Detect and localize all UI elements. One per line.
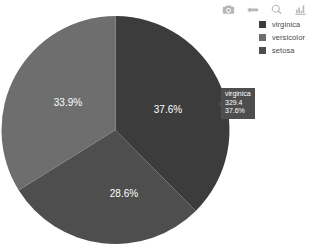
tooltip-value: 329.4 [225, 99, 251, 108]
modebar [222, 3, 307, 16]
legend-item-versicolor[interactable]: versicolor [259, 32, 305, 43]
pie-slices [2, 16, 230, 244]
legend-label-virginica: virginica [272, 19, 300, 30]
bar-chart-icon[interactable] [294, 3, 307, 16]
tooltip-title: virginica [225, 90, 251, 99]
hover-tooltip: virginica 329.4 37.6% [222, 89, 254, 118]
legend-swatch-virginica [259, 21, 266, 28]
zoom-icon[interactable] [270, 3, 283, 16]
legend: virginica versicolor setosa [259, 19, 305, 58]
slice-label-virginica: 37.6% [154, 104, 182, 115]
legend-label-setosa: setosa [272, 45, 295, 56]
slice-label-versicolor: 28.6% [110, 188, 138, 199]
legend-label-versicolor: versicolor [272, 32, 305, 43]
legend-swatch-setosa [259, 47, 266, 54]
legend-item-setosa[interactable]: setosa [259, 45, 305, 56]
legend-item-virginica[interactable]: virginica [259, 19, 305, 30]
pan-icon[interactable] [246, 3, 259, 16]
legend-swatch-versicolor [259, 34, 266, 41]
camera-icon[interactable] [222, 3, 235, 16]
pie-chart-plot: virginica versicolor setosa 37.6%28.6%33… [0, 0, 313, 251]
tooltip-arrow-icon [218, 100, 222, 108]
tooltip-percent: 37.6% [225, 107, 251, 116]
slice-label-setosa: 33.9% [54, 97, 82, 108]
